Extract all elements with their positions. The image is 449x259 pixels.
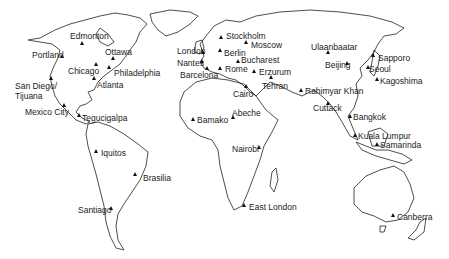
city-label-samarinda: Samarinda [380,141,421,150]
city-marker-east-london-icon [242,203,246,207]
tasmania-outline [380,226,386,232]
city-marker-bamako-icon [191,117,195,121]
madagascar-outline [270,168,278,192]
city-label-nairobi: Nairobi [232,145,259,154]
city-label-santiago: Santiago [78,206,112,215]
city-label-cairo: Cairo [233,90,253,99]
city-label-san-diego: San Diego/ [15,82,57,91]
city-marker-erzurum-icon [252,69,256,73]
city-label-atlanta: Atlanta [97,81,123,90]
city-label-canberra: Canberra [397,213,432,222]
africa-outline [180,78,278,210]
city-marker-chicago-icon [94,62,98,66]
city-marker-rome-icon [218,66,222,70]
city-label-bamako: Bamako [197,116,228,125]
city-label-ottawa: Ottawa [105,48,132,57]
city-label-erzurum: Erzurum [259,68,291,77]
city-label-moscow: Moscow [251,41,282,50]
city-label-rome: Rome [225,65,248,74]
city-label-tegucigalpa: Tegucigalpa [82,114,127,123]
city-label-brasilia: Brasilia [143,174,171,183]
city-label-east-london: East London [249,203,297,212]
city-label-mexico-city: Mexico City [25,108,69,117]
south-america-outline [86,122,148,250]
city-label-sapporo: Sapporo [378,54,410,63]
city-label-beijing: Beijing [325,61,351,70]
city-label-tehran: Tehran [262,82,288,91]
city-label-tijuana: Tijuana [15,92,43,101]
world-map [0,0,449,259]
city-marker-kagoshima-icon [375,77,379,81]
city-label-cuttack: Cuttack [313,104,342,113]
city-label-nantes: Nantes [177,59,204,68]
city-label-ulaanbaatar: Ulaanbaatar [311,43,357,52]
city-marker-tehran-icon [269,75,273,79]
city-label-philadelphia: Philadelphia [114,69,160,78]
city-marker-rahimyar-khan-icon [299,88,303,92]
city-marker-bucharest-icon [236,59,240,63]
greenland-outline [150,10,198,36]
city-marker-berlin-icon [218,48,222,52]
city-marker-tegucigalpa-icon [77,113,81,117]
city-marker-mexico-city-icon [62,103,66,107]
city-marker-kuala-lumpur-icon [353,133,357,137]
city-marker-edmonton-icon [80,41,84,45]
city-marker-cairo-icon [244,84,248,88]
city-label-edmonton: Edmonton [70,32,109,41]
city-label-barcelona: Barcelona [180,71,218,80]
city-label-rahimyar-khan: Rahimyar Khan [305,87,364,96]
city-label-kagoshima: Kagoshima [380,77,423,86]
city-marker-barcelona-icon [205,66,209,70]
city-label-portland: Portland [32,51,64,60]
city-label-seoul: Seoul [369,65,391,74]
city-marker-atlanta-icon [92,76,96,80]
city-marker-brasilia-icon [133,172,137,176]
city-marker-samarinda-icon [375,142,379,146]
city-label-iquitos: Iquitos [101,149,126,158]
city-marker-moscow-icon [244,40,248,44]
city-marker-canberra-icon [391,213,395,217]
city-marker-philadelphia-icon [107,65,111,69]
city-label-abeche: Abeche [232,109,261,118]
city-marker-bangkok-icon [348,114,352,118]
city-marker-stockholm-icon [219,35,223,39]
city-marker-sapporo-icon [371,53,375,57]
city-label-bangkok: Bangkok [353,113,386,122]
city-marker-iquitos-icon [94,149,98,153]
city-marker-san-diego-icon [49,76,53,80]
city-label-london: London [177,47,205,56]
